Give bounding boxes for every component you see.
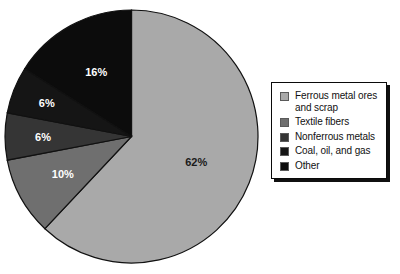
legend-swatch-icon [280, 162, 289, 171]
chart-legend: Ferrous metal ores and scrapTextile fibe… [271, 82, 387, 179]
pie-slice-label: 62% [185, 156, 207, 168]
legend-item-label: Textile fibers [295, 116, 349, 128]
legend-swatch-icon [280, 92, 289, 101]
legend-item-label: Other [295, 160, 320, 172]
legend-item-label: Coal, oil, and gas [295, 145, 370, 157]
pie-slice-label: 16% [85, 66, 107, 78]
chart-canvas: 62%10%6%6%16% Ferrous metal ores and scr… [0, 0, 400, 274]
pie-slice-label: 10% [52, 168, 74, 180]
legend-item[interactable]: Coal, oil, and gas [280, 145, 380, 157]
legend-item-label: Nonferrous metals [295, 131, 375, 143]
legend-item[interactable]: Nonferrous metals [280, 131, 380, 143]
pie-chart: 62%10%6%6%16% [3, 8, 260, 265]
legend-item-list: Ferrous metal ores and scrapTextile fibe… [280, 90, 380, 171]
legend-item[interactable]: Textile fibers [280, 116, 380, 128]
pie-slice-label: 6% [39, 97, 55, 109]
pie-chart-svg: 62%10%6%6%16% [3, 8, 260, 265]
legend-swatch-icon [280, 133, 289, 142]
legend-swatch-icon [280, 147, 289, 156]
legend-item[interactable]: Other [280, 160, 380, 172]
legend-swatch-icon [280, 118, 289, 127]
legend-item[interactable]: Ferrous metal ores and scrap [280, 90, 380, 113]
pie-slice-label: 6% [35, 131, 51, 143]
legend-item-label: Ferrous metal ores and scrap [295, 90, 380, 113]
